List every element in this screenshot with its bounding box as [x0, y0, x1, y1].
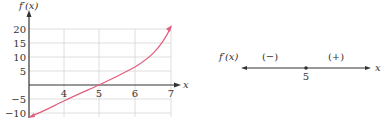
critical-point-dot	[304, 66, 308, 70]
critical-point-label: 5	[303, 71, 309, 82]
f-prime-curve	[29, 27, 171, 117]
x-tick-6: 6	[132, 88, 138, 99]
sign-line-left-arrow-icon	[241, 66, 247, 70]
x-axis-arrow-icon	[174, 83, 181, 88]
sign-line-right-arrow-icon	[365, 66, 371, 70]
grid	[29, 29, 171, 117]
x-axis-label: x	[183, 79, 189, 90]
y-tick-15: 15	[13, 38, 26, 49]
sign-chart: f′(x) (−) (+) 5 x	[218, 51, 381, 82]
sign-chart-function-label: f′(x)	[218, 51, 239, 62]
y-tick-10: 10	[13, 52, 26, 63]
x-tick-7: 7	[168, 88, 174, 99]
x-axis	[29, 83, 181, 88]
sign-chart-axis-label: x	[375, 62, 381, 73]
y-tick-20: 20	[13, 24, 26, 35]
y-tick-5: 5	[20, 66, 26, 77]
y-axis	[27, 10, 32, 118]
positive-sign-label: (+)	[328, 51, 344, 62]
x-tick-4: 4	[61, 88, 67, 99]
y-tick-neg5: −5	[11, 94, 26, 105]
figure: f′(x) x 4 5 6 7 20 15 10 5 −5 −10 f′(x) …	[0, 0, 389, 129]
x-tick-5: 5	[96, 88, 102, 99]
y-tick-neg10: −10	[5, 108, 26, 119]
y-axis-label: f′(x)	[18, 0, 39, 11]
y-axis-arrow-icon	[27, 10, 32, 17]
negative-sign-label: (−)	[262, 51, 278, 62]
